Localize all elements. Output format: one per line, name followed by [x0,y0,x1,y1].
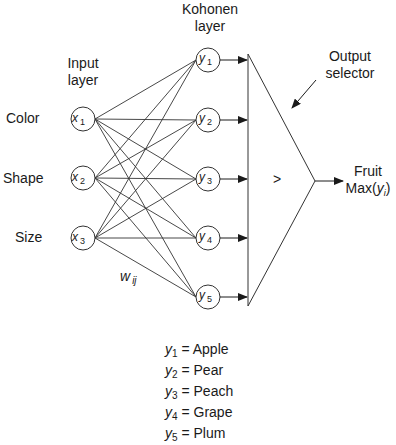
output-label: Fruit Max(yi) [340,163,396,202]
input-node-x3-label: x3 [72,230,85,246]
legend: y1 = Apple y2 = Pear y3 = Peach y4 = Gra… [165,341,233,445]
weight-label: wij [120,268,137,286]
kohonen-node-y1-label: y1 [199,51,212,67]
kohonen-node-y5-label: y5 [199,288,212,304]
output-selector-pointer-arrow [292,80,316,108]
comparator-symbol: > [273,171,281,188]
input-node-x1-label: x1 [72,111,85,127]
kohonen-output-arrows [220,60,247,297]
kohonen-node-y2-label: y2 [199,111,212,127]
kohonen-node-y4-label: y4 [199,229,212,245]
legend-item: y5 = Plum [165,425,233,445]
legend-item: y1 = Apple [165,341,233,362]
feature-label-color: Color [6,110,39,127]
input-node-x2-label: x2 [72,170,85,186]
feature-label-shape: Shape [3,170,43,187]
feature-label-size: Size [15,229,42,246]
kohonen-node-y3-label: y3 [199,170,212,186]
kohonen-layer-label: Kohonen layer [180,1,240,35]
legend-item: y3 = Peach [165,383,233,404]
legend-item: y2 = Pear [165,362,233,383]
legend-item: y4 = Grape [165,404,233,425]
weight-connections [95,60,196,297]
output-selector-triangle [248,54,315,306]
output-selector-label: Output selector [315,48,385,82]
input-layer-label: Input layer [58,55,108,89]
